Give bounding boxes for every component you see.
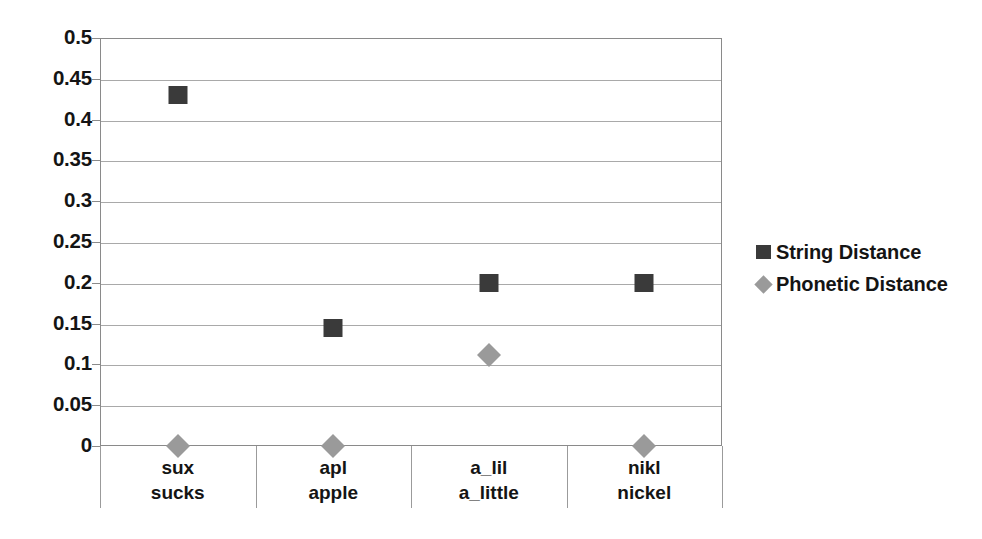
y-axis-tick-label: 0.5 bbox=[6, 27, 92, 48]
y-axis-tick-label: 0 bbox=[6, 435, 92, 456]
x-axis-separator bbox=[722, 446, 723, 508]
gridline bbox=[101, 284, 721, 285]
chart-legend: String DistancePhonetic Distance bbox=[750, 236, 948, 300]
legend-swatch bbox=[750, 278, 776, 291]
legend-item-label: Phonetic Distance bbox=[776, 273, 948, 296]
legend-item-label: String Distance bbox=[776, 241, 921, 264]
gridline bbox=[101, 325, 721, 326]
x-axis-category-label: sux sucks bbox=[100, 455, 256, 505]
data-point-square bbox=[168, 86, 187, 104]
data-point-square bbox=[635, 274, 654, 292]
gridline bbox=[101, 202, 721, 203]
legend-swatch bbox=[750, 245, 776, 259]
gridline bbox=[101, 406, 721, 407]
y-axis-tick-label: 0.25 bbox=[6, 231, 92, 252]
x-axis-category-label: a_lil a_little bbox=[411, 455, 567, 505]
legend-item: String Distance bbox=[750, 236, 948, 268]
y-axis-tick-label: 0.15 bbox=[6, 313, 92, 334]
x-axis-category-label: apl apple bbox=[256, 455, 412, 505]
y-axis-tick-label: 0.05 bbox=[6, 394, 92, 415]
square-marker-icon bbox=[756, 245, 771, 259]
y-axis: 00.050.10.150.20.250.30.350.40.450.5 bbox=[0, 0, 92, 539]
gridline bbox=[101, 243, 721, 244]
plot-area bbox=[100, 38, 722, 446]
y-axis-tick-label: 0.2 bbox=[6, 272, 92, 293]
y-axis-tick-label: 0.4 bbox=[6, 109, 92, 130]
legend-item: Phonetic Distance bbox=[750, 268, 948, 300]
data-point-square bbox=[324, 319, 343, 337]
gridline bbox=[101, 365, 721, 366]
data-point-square bbox=[479, 274, 498, 292]
gridline bbox=[101, 121, 721, 122]
y-axis-tick-label: 0.1 bbox=[6, 353, 92, 374]
scatter-chart: 00.050.10.150.20.250.30.350.40.450.5 sux… bbox=[0, 0, 982, 539]
gridline bbox=[101, 161, 721, 162]
gridline bbox=[101, 80, 721, 81]
x-axis-category-label: nikl nickel bbox=[567, 455, 723, 505]
y-axis-tick-label: 0.3 bbox=[6, 190, 92, 211]
diamond-marker-icon bbox=[754, 275, 772, 293]
y-axis-tick-label: 0.45 bbox=[6, 68, 92, 89]
y-axis-tick-label: 0.35 bbox=[6, 149, 92, 170]
